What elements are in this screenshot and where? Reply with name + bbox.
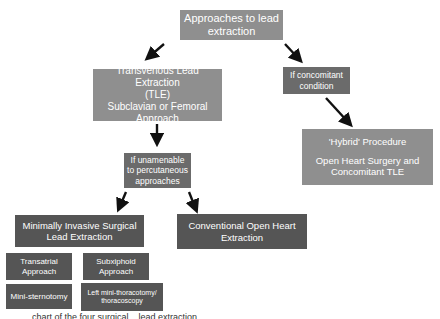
- title-box: Approaches to lead extraction: [180, 10, 283, 40]
- arrow-unamenable-to-conventional: [189, 192, 195, 207]
- arrow-title-to-tle: [150, 44, 164, 56]
- unamenable-line3: approaches: [135, 176, 179, 186]
- hybrid-line2: Concomitant TLE: [331, 166, 404, 177]
- minimally-invasive-box: Minimally Invasive Surgical Lead Extract…: [15, 215, 144, 247]
- concomitant-line2: condition: [299, 81, 333, 91]
- hybrid-line1: Open Heart Surgery and: [316, 155, 420, 166]
- conventional-box: Conventional Open Heart Extraction: [177, 214, 307, 249]
- thoracotomy-line2: thoracoscopy: [101, 297, 143, 305]
- subxiphoid-box: Subxiphoid Approach: [83, 253, 149, 280]
- tle-line4: Approach: [136, 113, 179, 125]
- hybrid-title: 'Hybrid' Procedure: [329, 136, 407, 147]
- concomitant-line1: If concomitant: [290, 70, 343, 80]
- tle-line3: Subclavian or Femoral: [107, 101, 207, 113]
- arrow-title-to-concomitant: [285, 44, 298, 58]
- transatrial-box: Transatrial Approach: [6, 253, 72, 280]
- unamenable-line2: to percutaneous: [127, 165, 188, 175]
- tle-line2: (TLE): [145, 89, 170, 101]
- conventional-line2: Extraction: [221, 232, 263, 243]
- arrow-unamenable-to-minimal: [120, 192, 126, 206]
- arrow-concomitant-to-hybrid: [326, 98, 348, 122]
- left-mini-thoracotomy-box: Left mini-thoracotomy/ thoracoscopy: [81, 283, 163, 311]
- subxiphoid-line2: Approach: [99, 267, 133, 277]
- subxiphoid-line1: Subxiphoid: [96, 257, 136, 267]
- title-line2: extraction: [208, 25, 256, 38]
- hybrid-box: 'Hybrid' Procedure Open Heart Surgery an…: [302, 129, 433, 185]
- tle-line1: Transvenous Lead Extraction: [93, 65, 222, 89]
- mini-sternotomy-box: Mini-sternotomy: [6, 284, 72, 309]
- transatrial-line2: Approach: [22, 267, 56, 277]
- tle-box: Transvenous Lead Extraction (TLE) Subcla…: [93, 69, 222, 121]
- figure-caption: ... chart of the four surgical... lead e…: [22, 310, 197, 319]
- transatrial-line1: Transatrial: [20, 257, 58, 267]
- conventional-line1: Conventional Open Heart: [188, 220, 295, 231]
- title-line1: Approaches to lead: [184, 12, 279, 25]
- minimal-line1: Minimally Invasive Surgical: [22, 220, 136, 231]
- thoracotomy-line1: Left mini-thoracotomy/: [87, 289, 156, 297]
- mini-sternotomy-line1: Mini-sternotomy: [11, 292, 68, 302]
- concomitant-box: If concomitant condition: [283, 67, 350, 94]
- unamenable-box: If unamenable to percutaneous approaches: [124, 153, 191, 188]
- minimal-line2: Lead Extraction: [46, 231, 112, 242]
- unamenable-line1: If unamenable: [131, 155, 185, 165]
